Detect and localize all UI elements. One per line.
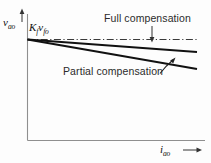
intercept-v-subscript: fo [43,27,48,36]
full-compensation-label: Full compensation [104,13,191,24]
intercept-k-subscript: f [36,27,38,36]
x-axis-label-subscript: ao [163,149,170,158]
x-axis-arrow-icon [183,147,202,152]
y-axis-arrow-icon [20,9,25,23]
y-axis-label-subscript: ao [8,22,15,31]
full-compensation-pointer-icon [150,26,155,43]
y-intercept-label: Kfvfo [29,22,49,33]
partial-compensation-label: Partial compensation [63,66,163,77]
y-axis-label: vao [3,17,15,28]
upper-characteristic-line [28,40,198,53]
figure-container: vao iao Kfvfo Full compensation Partial … [0,0,211,163]
x-axis-label: iao [160,144,170,155]
